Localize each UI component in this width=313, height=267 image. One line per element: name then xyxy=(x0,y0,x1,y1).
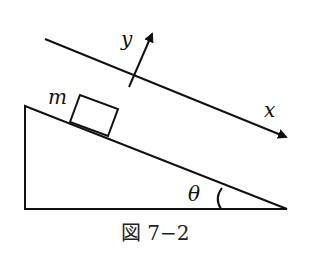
figure-caption: 図 7−2 xyxy=(121,221,190,245)
x-axis-label: x xyxy=(264,98,275,122)
x-axis-arrow xyxy=(45,39,286,137)
incline-diagram: y m x θ 図 7−2 xyxy=(0,0,313,267)
mass-label: m xyxy=(48,85,67,109)
angle-label: θ xyxy=(188,182,200,206)
block-m xyxy=(70,95,118,136)
y-axis-arrow xyxy=(129,34,152,87)
angle-arc xyxy=(218,188,222,209)
y-axis-label: y xyxy=(120,27,133,51)
